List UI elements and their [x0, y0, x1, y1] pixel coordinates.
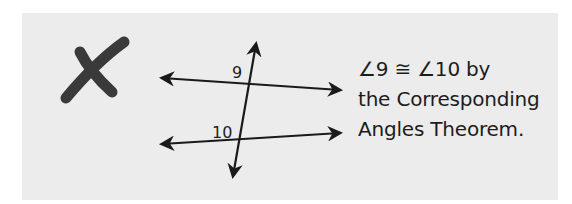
incorrect-x-mark-icon	[66, 42, 124, 98]
statement-text: ∠9 ≅ ∠10 by the Corresponding Angles The…	[358, 54, 568, 144]
angle-label-10: 10	[212, 123, 232, 142]
statement-line-1: ∠9 ≅ ∠10 by	[358, 54, 568, 84]
statement-line-3: Angles Theorem.	[358, 114, 568, 144]
top-parallel-line	[162, 78, 340, 90]
statement-line-2: the Corresponding	[358, 84, 568, 114]
bottom-parallel-line	[162, 133, 340, 144]
angle-label-9: 9	[232, 63, 242, 82]
